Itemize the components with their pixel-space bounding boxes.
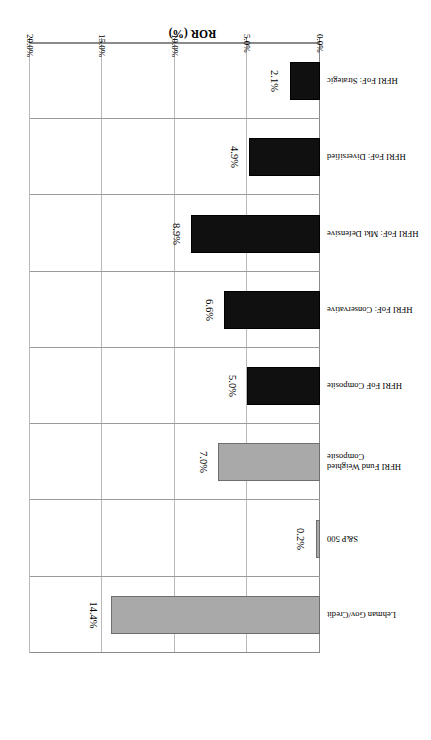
bar-row: 4.9% HFRI FoF: Diversified <box>30 119 320 195</box>
category-label-hfri-fof-conservative: HFRI FoF: Conservative <box>327 305 412 315</box>
bar-value-label: 0.2% <box>295 528 306 550</box>
category-label-hfri-fof-mkt-defensive: HFRI FoF: Mkt Defensive <box>327 229 418 239</box>
bar-lehman-gov-credit[interactable] <box>111 596 320 634</box>
bar-value-label: 6.6% <box>204 299 215 321</box>
bar-row: 14.4% Lehman Gov/Credit <box>30 577 320 653</box>
chart-page: 14.4% Lehman Gov/Credit 0.2% S&P 500 7.0… <box>0 0 431 740</box>
bar-hfri-fof-strategic[interactable] <box>290 62 320 100</box>
axis-title: ROR (%) <box>0 28 431 40</box>
bar-hfri-fof-conservative[interactable] <box>224 291 320 329</box>
bar-value-label: 5.0% <box>227 375 238 397</box>
bar-row: 0.2% S&P 500 <box>30 501 320 577</box>
category-label-hfri-fof-diversified: HFRI FoF: Diversified <box>327 152 406 162</box>
axis-title-text: ROR (%) <box>169 28 217 40</box>
category-label-lehman-gov-credit: Lehman Gov/Credit <box>327 610 396 620</box>
bar-row: 8.9% HFRI FoF: Mkt Defensive <box>30 196 320 272</box>
plot-area: 14.4% Lehman Gov/Credit 0.2% S&P 500 7.0… <box>30 43 320 653</box>
category-label-sp-500: S&P 500 <box>327 534 358 544</box>
bar-row: 6.6% HFRI FoF: Conservative <box>30 272 320 348</box>
bar-hfri-fund-weighted-composite[interactable] <box>219 444 321 482</box>
bar-value-label: 8.9% <box>171 223 182 245</box>
bar-row: 7.0% HFRI Fund Weighted Composite <box>30 424 320 500</box>
bar-value-label: 14.4% <box>87 601 98 628</box>
bar-value-label: 4.9% <box>229 146 240 168</box>
category-label-hfri-fof-composite: HFRI FoF Composite <box>327 381 402 391</box>
bar-hfri-fof-mkt-defensive[interactable] <box>191 215 320 253</box>
bar-hfri-fof-composite[interactable] <box>248 367 321 405</box>
rotated-figure: 14.4% Lehman Gov/Credit 0.2% S&P 500 7.0… <box>0 0 431 740</box>
bar-value-label: 2.1% <box>269 70 280 92</box>
bar-sp-500[interactable] <box>316 520 320 558</box>
category-label-hfri-fof-strategic: HFRI FoF: Strategic <box>327 76 398 86</box>
bar-hfri-fof-diversified[interactable] <box>249 139 320 177</box>
bar-value-label: 7.0% <box>198 451 209 473</box>
bar-row: 5.0% HFRI FoF Composite <box>30 348 320 424</box>
category-label-hfri-fund-weighted-composite: HFRI Fund Weighted Composite <box>327 452 401 472</box>
